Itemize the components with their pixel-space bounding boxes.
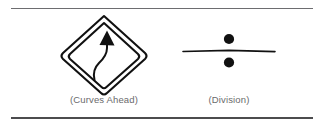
bottom-divider-rule xyxy=(11,117,313,119)
caption-division: (Division) xyxy=(168,94,290,106)
top-divider-rule xyxy=(11,8,313,9)
caption-curves-ahead: (Curves Ahead) xyxy=(40,94,168,106)
symbol-cell-division: (Division) xyxy=(168,12,290,112)
curves-ahead-road-sign-icon xyxy=(56,12,152,96)
division-sign-icon xyxy=(177,12,281,96)
figure-container: (Curves Ahead) (Division) xyxy=(0,0,323,127)
symbol-cell-curves-ahead: (Curves Ahead) xyxy=(40,12,168,112)
curves-ahead-glyph-area xyxy=(40,12,168,96)
division-glyph-area xyxy=(168,12,290,96)
